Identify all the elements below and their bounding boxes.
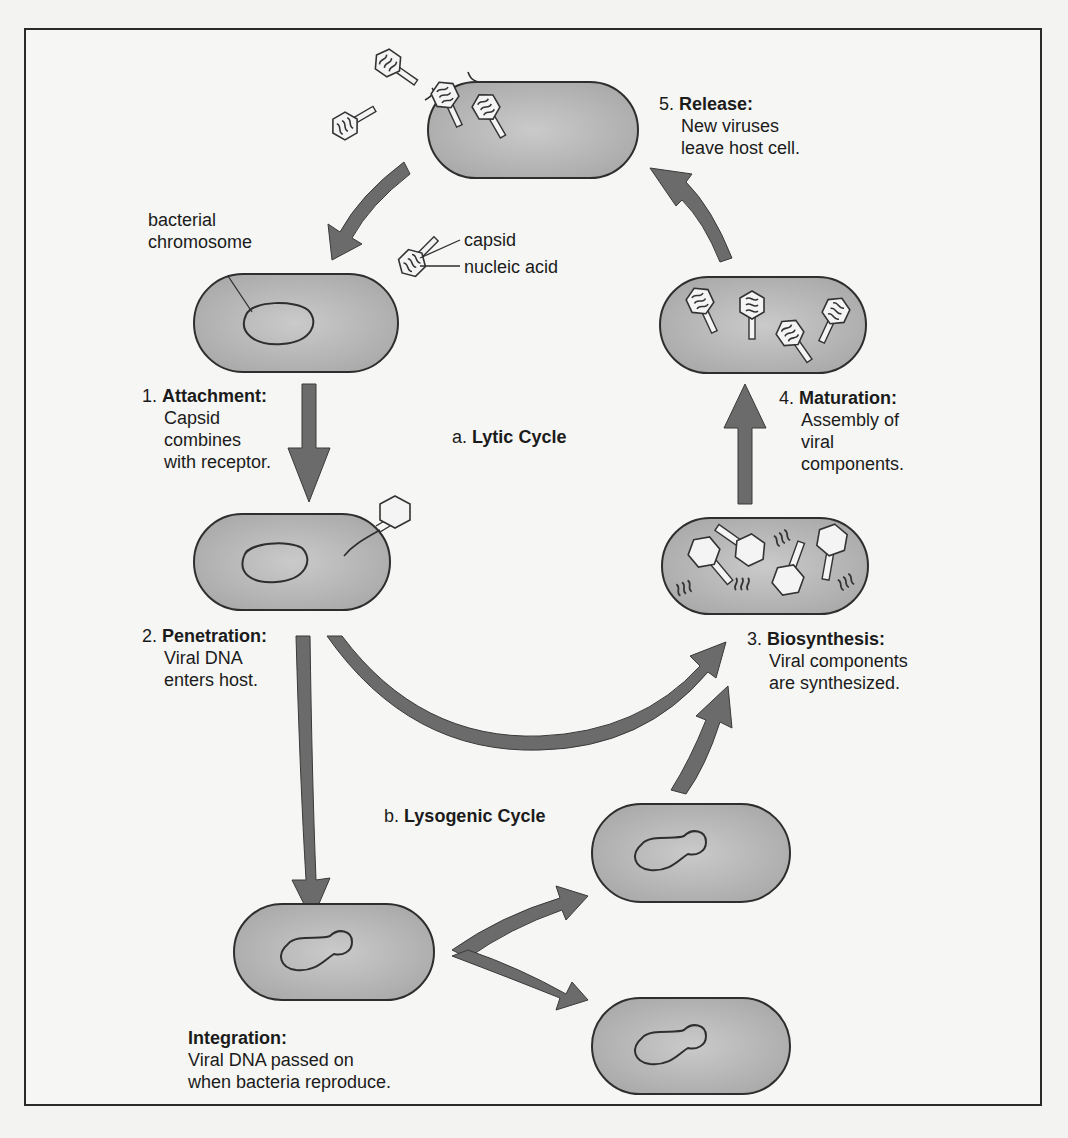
arrow-penetration-to-biosynthesis: [327, 636, 726, 750]
step-attachment: 1. Attachment: Capsid combines with rece…: [142, 385, 271, 473]
arrow-integration-to-daughter-top: [452, 886, 588, 958]
step-biosynthesis: 3. Biosynthesis: Viral components are sy…: [747, 628, 908, 694]
step-title: Release:: [679, 94, 753, 114]
cell-daughter-top: [592, 804, 790, 902]
step-maturation: 4. Maturation: Assembly of viral compone…: [779, 387, 904, 475]
cell-biosynthesis: [662, 516, 868, 614]
cell-maturation: [660, 277, 866, 373]
title-lytic-cycle: a. Lytic Cycle: [452, 426, 566, 448]
empty-capsid-icon: [380, 496, 410, 528]
label-nucleic-acid: nucleic acid: [464, 256, 558, 278]
label-bacterial-chromosome: bacterial chromosome: [148, 209, 252, 253]
cell-integration: [234, 904, 434, 1000]
step-penetration: 2. Penetration: Viral DNA enters host.: [142, 625, 267, 691]
cell-daughter-bottom: [592, 998, 790, 1094]
arrow-lysogenic-to-biosynthesis: [671, 686, 732, 794]
viral-replication-diagram: [0, 0, 1068, 1138]
phage-icon: [327, 99, 381, 144]
step-title: Integration:: [188, 1027, 391, 1049]
step-title: Attachment:: [162, 386, 267, 406]
label-capsid: capsid: [464, 229, 516, 251]
step-release: 5. Release: New viruses leave host cell.: [659, 93, 800, 159]
arrow-maturation-to-release: [650, 168, 732, 262]
title-lysogenic-cycle: b. Lysogenic Cycle: [384, 805, 545, 827]
cell-penetration: [194, 496, 410, 610]
phage-icon: [370, 45, 423, 92]
phage-icon: [394, 230, 445, 281]
step-title: Biosynthesis:: [767, 629, 885, 649]
arrow-release-to-attachment: [328, 162, 410, 260]
step-integration: Integration: Viral DNA passed on when ba…: [188, 1027, 391, 1093]
arrow-attachment-to-penetration: [288, 384, 330, 502]
arrow-penetration-to-integration: [292, 636, 330, 920]
arrow-integration-to-daughter-bottom: [452, 950, 588, 1010]
arrow-biosynthesis-to-maturation: [724, 384, 766, 504]
cell-release: [327, 45, 638, 178]
step-title: Maturation:: [799, 388, 897, 408]
step-title: Penetration:: [162, 626, 267, 646]
